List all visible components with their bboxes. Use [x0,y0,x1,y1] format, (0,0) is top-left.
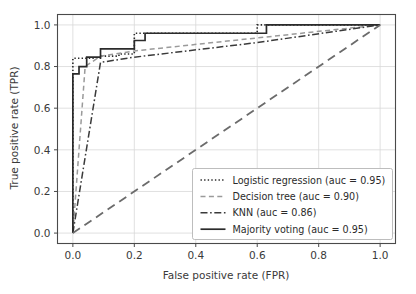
x-tick-label-0: 0.0 [65,249,82,261]
legend-label-decision-tree: Decision tree (auc = 0.90) [233,191,359,202]
x-tick-label-3: 0.6 [249,249,266,261]
y-tick-label-2: 0.4 [34,144,51,156]
x-tick-label-5: 1.0 [372,249,389,261]
x-tick-label-1: 0.2 [126,249,143,261]
y-tick-label-5: 1.0 [34,19,51,31]
y-axis-title: True positive rate (TPR) [8,66,20,190]
x-axis-title: False positive rate (FPR) [163,269,290,281]
legend: Logistic regression (auc = 0.95)Decision… [193,169,393,240]
legend-label-knn: KNN (auc = 0.86) [233,207,317,218]
legend-label-logistic-regression: Logistic regression (auc = 0.95) [233,175,386,186]
y-tick-label-1: 0.2 [34,185,51,197]
y-tick-label-0: 0.0 [34,227,51,239]
roc-plot-svg: 0.00.20.40.60.81.00.00.20.40.60.81.0 Log… [0,0,416,294]
x-tick-label-2: 0.4 [187,249,204,261]
x-tick-label-4: 0.8 [310,249,327,261]
roc-curve-figure: 0.00.20.40.60.81.00.00.20.40.60.81.0 Log… [0,0,416,294]
legend-label-majority-voting: Majority voting (auc = 0.95) [233,224,368,235]
y-tick-label-3: 0.6 [34,102,51,114]
y-tick-label-4: 0.8 [34,60,51,72]
